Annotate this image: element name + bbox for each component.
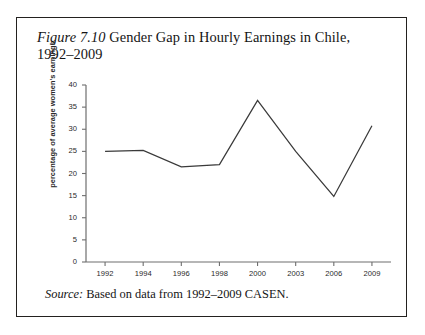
source-label: Source: [45, 287, 83, 301]
y-axis-tick-label: 35 [53, 102, 77, 111]
source-note: Source: Based on data from 1992–2009 CAS… [45, 287, 289, 302]
y-axis-tick-label: 20 [53, 169, 77, 178]
y-axis-tick-label: 15 [53, 191, 77, 200]
chart-plot-area: percentage of average women's earnings 0… [17, 18, 408, 318]
y-axis-tick-label: 30 [53, 124, 77, 133]
y-axis-tick-label: 25 [53, 146, 77, 155]
y-axis-tick-label: 40 [53, 80, 77, 89]
y-axis-tick-label: 0 [53, 257, 77, 266]
data-series-line [105, 100, 372, 196]
figure-frame: Figure 7.10 Gender Gap in Hourly Earning… [16, 17, 407, 317]
y-axis-tick-label: 5 [53, 235, 77, 244]
x-axis-tick-label: 2009 [350, 269, 394, 278]
source-text: Based on data from 1992–2009 CASEN. [83, 287, 288, 301]
y-axis-tick-label: 10 [53, 213, 77, 222]
y-axis-title: percentage of average women's earnings [48, 20, 57, 210]
